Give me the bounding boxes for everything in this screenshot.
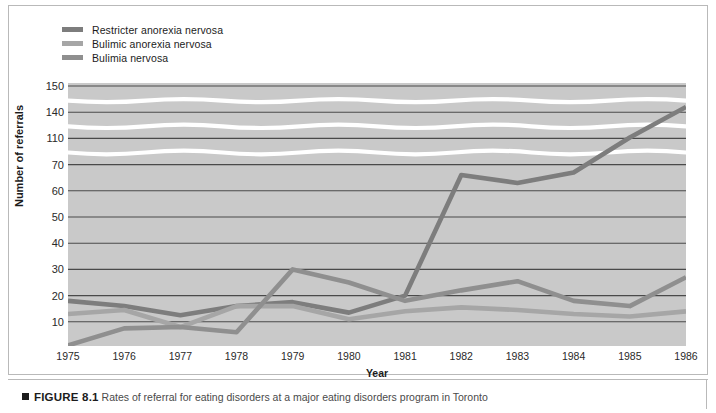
figure-caption-text: Rates of referral for eating disorders a… [102, 391, 488, 403]
axis-break-band-middle [68, 125, 686, 128]
y-axis-tick-70: 70 [2, 159, 64, 171]
x-axis-tick-1976: 1976 [102, 350, 146, 362]
figure-right-edge [706, 379, 707, 409]
legend-label-1: Bulimic anorexia nervosa [92, 38, 212, 50]
y-axis-tick-140: 140 [2, 106, 64, 118]
x-axis-tick-1981: 1981 [383, 350, 427, 362]
x-axis-tick-1982: 1982 [439, 350, 483, 362]
axis-break-band-lower [68, 151, 686, 155]
y-axis-tick-30: 30 [2, 263, 64, 275]
legend-item-bulimic-anorexia-nervosa: Bulimic anorexia nervosa [62, 37, 322, 50]
y-axis-tick-50: 50 [2, 211, 64, 223]
y-axis-title: Number of referrals [13, 81, 25, 231]
y-axis-tick-labels: 15014011070605040302010 [0, 76, 64, 356]
series-line-bulimic-anorexia-nervosa [68, 306, 686, 327]
legend-swatch-icon-2 [62, 55, 83, 60]
x-axis-tick-1980: 1980 [327, 350, 371, 362]
legend-item-bulimia-nervosa: Bulimia nervosa [62, 51, 322, 64]
x-axis-tick-1985: 1985 [608, 350, 652, 362]
legend-label-2: Bulimia nervosa [92, 52, 168, 64]
x-axis-tick-1983: 1983 [495, 350, 539, 362]
y-axis-tick-60: 60 [2, 185, 64, 197]
x-axis-tick-1978: 1978 [215, 350, 259, 362]
plot-area [68, 83, 686, 346]
legend-swatch-icon-1 [62, 41, 83, 46]
figure-caption: FIGURE 8.1 Rates of referral for eating … [22, 391, 692, 403]
x-axis-tick-labels: 1975197619771978197919801981198219831984… [68, 350, 686, 366]
legend-label-0: Restricter anorexia nervosa [92, 24, 223, 36]
x-axis-tick-1977: 1977 [158, 350, 202, 362]
y-axis-tick-20: 20 [2, 290, 64, 302]
plot-svg [68, 83, 686, 346]
figure-bottom-rule [8, 379, 708, 380]
x-axis-tick-1975: 1975 [46, 350, 90, 362]
axis-break-band-upper [68, 99, 686, 102]
y-axis-tick-110: 110 [2, 132, 64, 144]
x-axis-tick-1984: 1984 [552, 350, 596, 362]
x-axis-tick-1986: 1986 [664, 350, 708, 362]
y-axis-tick-150: 150 [2, 80, 64, 92]
x-axis-title: Year [68, 367, 686, 379]
chart-legend: Restricter anorexia nervosa Bulimic anor… [62, 23, 322, 65]
y-axis-tick-10: 10 [2, 316, 64, 328]
x-axis-tick-1979: 1979 [271, 350, 315, 362]
legend-item-restricter-anorexia-nervosa: Restricter anorexia nervosa [62, 23, 322, 36]
black-square-bullet-icon [22, 393, 29, 400]
y-axis-tick-40: 40 [2, 237, 64, 249]
legend-swatch-icon-0 [62, 27, 83, 32]
figure-number: FIGURE 8.1 [34, 391, 99, 403]
series-line-bulimia-nervosa [68, 269, 686, 345]
